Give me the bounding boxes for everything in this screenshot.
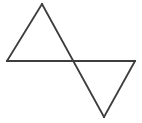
two-triangles-drawing xyxy=(0,0,142,123)
figure-canvas xyxy=(0,0,142,123)
